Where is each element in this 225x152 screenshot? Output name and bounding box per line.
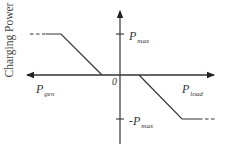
pgen-label: Pgen [36, 80, 54, 98]
pload-label: Pload [182, 80, 203, 98]
y-axis [116, 11, 124, 144]
left-ramp-segment [46, 34, 102, 75]
origin-label: 0 [112, 77, 117, 87]
characteristic-curve [30, 34, 216, 119]
neg-pmax-label: -Pmax [129, 112, 153, 130]
charging-power-diagram: Charging Power 0 Pmax -Pmax Pgen Pload [0, 0, 225, 152]
y-axis-label: Charging Power [2, 0, 16, 80]
pmax-label: Pmax [129, 27, 149, 45]
